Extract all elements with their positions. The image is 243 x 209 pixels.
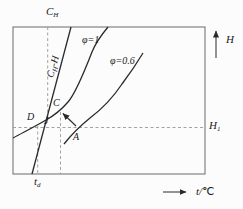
phi1-label: φ=1: [82, 35, 99, 45]
h-axis-label: H: [226, 34, 234, 45]
ch-top-sub: H: [53, 11, 58, 19]
td-label: td: [34, 176, 41, 189]
h1-main: H: [209, 119, 217, 131]
h1-sub: 1: [217, 125, 221, 133]
point-a-label: A: [73, 132, 79, 142]
point-c-label: C: [53, 98, 60, 108]
chh-line: [32, 27, 71, 174]
point-j-label: J: [44, 116, 48, 126]
h1-label: H1: [209, 120, 220, 133]
ch-top-label: CH: [46, 6, 58, 19]
a-to-c-arrow: [63, 114, 76, 127]
phi06-label: φ=0.6: [110, 56, 135, 66]
point-d-label: D: [27, 112, 34, 122]
t-axis-unit: ℃: [202, 185, 214, 197]
figure-humidity-chart: CH H H1 td t/℃ φ=1 φ=0.6 CH-H D J C A: [0, 0, 243, 209]
td-sub: d: [37, 181, 41, 189]
t-axis-label: t/℃: [196, 186, 214, 197]
chh-rest: -H: [47, 54, 60, 67]
